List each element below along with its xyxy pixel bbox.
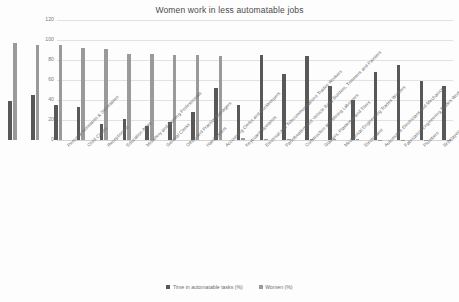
chart-title: Women work in less automatable jobs — [0, 5, 459, 15]
x-axis-category-label: Hairdressers — [206, 145, 209, 148]
bar-women[interactable] — [59, 45, 63, 140]
chart-container: Women work in less automatable jobs 0204… — [0, 0, 459, 302]
bar-time-in-automatable-tasks[interactable] — [54, 105, 58, 140]
bar-group[interactable] — [435, 20, 458, 140]
x-axis-category-label: Midwifery and Nursing Professionals — [146, 145, 149, 148]
x-axis-labels: Personal Assistants & SecretariesChild C… — [57, 145, 453, 265]
bar-time-in-automatable-tasks[interactable] — [31, 95, 35, 140]
x-axis-category-label: Child Carers — [87, 145, 90, 148]
x-axis-category-label: Receptionists — [107, 145, 110, 148]
bar-group[interactable] — [115, 20, 138, 140]
x-axis-category-label: Bricklayers, Carpenters and Joiners — [443, 145, 446, 148]
x-axis-category-label: Panelbeaters and Vehicle Body Builders, … — [285, 145, 288, 148]
bar-women[interactable] — [36, 45, 40, 140]
x-axis-category-label: Automotive Electricians and Mechanics — [384, 145, 387, 148]
legend-label: Women (%) — [265, 284, 292, 290]
bar-time-in-automatable-tasks[interactable] — [8, 101, 12, 140]
chart-legend: Time in automatable tasks (%)Women (%) — [0, 284, 459, 290]
bar-women[interactable] — [401, 140, 405, 141]
legend-swatch — [166, 285, 170, 289]
x-axis-category-label: General Clerks — [166, 145, 169, 148]
bar-women[interactable] — [241, 138, 245, 140]
bar-group[interactable] — [92, 20, 115, 140]
x-axis-category-label: Fabrication Engineering Trades Workers — [404, 145, 407, 148]
x-axis-category-label: Accounting Clerks and Bookkeepers — [225, 145, 228, 148]
plot-area: 020406080100120 — [0, 20, 459, 145]
x-axis-category-label: Education Aides — [126, 145, 129, 148]
bar-women[interactable] — [378, 140, 382, 141]
x-axis-category-label: Personal Assistants & Secretaries — [67, 145, 70, 148]
bar-group[interactable] — [47, 20, 70, 140]
bar-time-in-automatable-tasks[interactable] — [328, 86, 332, 140]
bars-layer — [0, 20, 459, 140]
bar-women[interactable] — [356, 139, 360, 140]
bar-group[interactable] — [24, 20, 47, 140]
x-axis-category-label: Office and Practice Managers — [186, 145, 189, 148]
legend-item[interactable]: Time in automatable tasks (%) — [166, 284, 242, 290]
bar-time-in-automatable-tasks[interactable] — [442, 86, 446, 140]
x-axis-category-label: Construction and Mining Labourers — [305, 145, 308, 148]
legend-label: Time in automatable tasks (%) — [173, 284, 243, 290]
bar-women[interactable] — [13, 43, 17, 140]
bar-group[interactable] — [1, 20, 24, 140]
bar-women[interactable] — [150, 54, 154, 140]
x-axis-category-label: Plumbers — [423, 145, 426, 148]
bar-women[interactable] — [173, 55, 177, 140]
x-axis-category-label: Mechanical Engineering Trades Workers — [344, 145, 347, 148]
x-axis-category-label: Keyboard Operators — [245, 145, 248, 148]
x-axis-category-label: Glaziers, Plasterers and Tilers — [324, 145, 327, 148]
legend-item[interactable]: Women (%) — [259, 284, 293, 290]
x-axis-category-label: Electricians — [364, 145, 367, 148]
legend-swatch — [259, 285, 263, 289]
x-axis-category-label: Electrical and Telecommunications Trades… — [265, 145, 268, 148]
